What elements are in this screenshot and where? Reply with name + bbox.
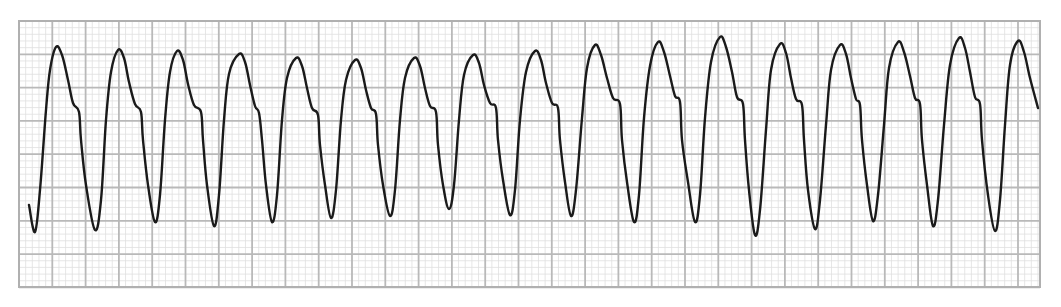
ecg-strip	[0, 0, 1061, 307]
ecg-trace	[29, 36, 1038, 235]
ecg-chart	[0, 0, 1061, 307]
